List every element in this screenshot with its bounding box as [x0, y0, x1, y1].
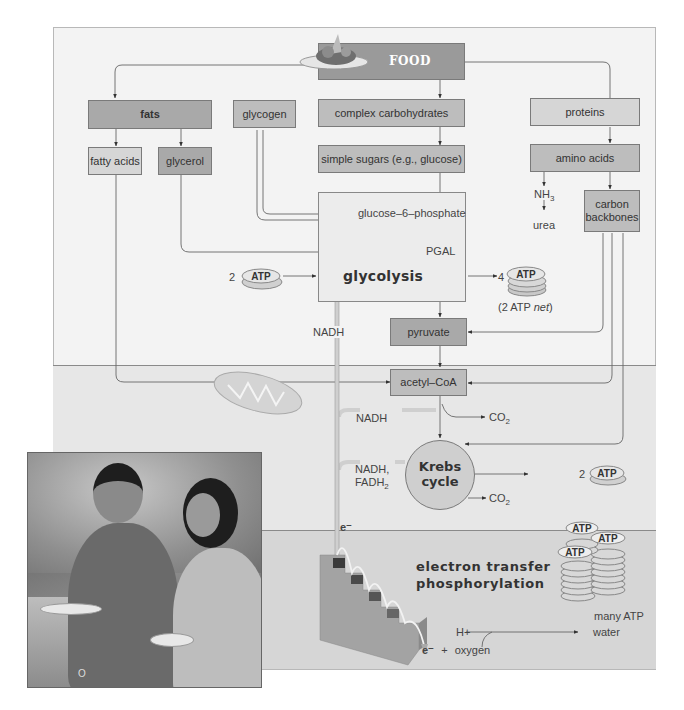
photo-caption: O [78, 668, 86, 679]
e-minus-text: e⁻ [422, 644, 434, 656]
etp-label-1: electron transfer [416, 559, 551, 576]
atp-net-close: ) [549, 301, 553, 313]
svg-text:ATP: ATP [572, 523, 592, 534]
students-eating-photo: O [27, 452, 262, 688]
fats-label: fats [140, 108, 160, 121]
co2-krebs-label: CO2 [489, 492, 510, 507]
svg-text:ATP: ATP [597, 468, 617, 479]
svg-text:ATP: ATP [251, 271, 271, 282]
co2-acetyl-label: CO2 [489, 411, 510, 426]
fadh2-krebs-label: FADH2 [355, 476, 389, 491]
e-oxygen-label: e⁻ + oxygen [422, 644, 490, 657]
etp-label-2: phosphorylation [416, 576, 551, 593]
krebs-cycle-circle: Krebs cycle [405, 440, 475, 510]
glycerol-label: glycerol [166, 155, 204, 168]
proteins-box: proteins [530, 98, 640, 126]
fadh2-subscript: 2 [384, 482, 388, 491]
pgal-label: PGAL [426, 245, 455, 257]
carbon-backbones-label-2: backbones [585, 211, 638, 224]
nadh-krebs-label: NADH, [355, 463, 389, 475]
nadh-glycolysis-label: NADH [313, 326, 344, 338]
amino-acids-box: amino acids [530, 144, 640, 172]
h-plus-label: H+ [456, 626, 470, 638]
simple-sugars-box: simple sugars (e.g., glucose) [318, 145, 465, 173]
atp-net-italic: net [534, 301, 549, 313]
svg-text:ATP: ATP [565, 547, 585, 558]
complex-carbohydrates-label: complex carbohydrates [335, 107, 449, 120]
complex-carbohydrates-box: complex carbohydrates [318, 99, 465, 127]
atp-out-count: 4 [498, 271, 504, 283]
nadh-acetyl-label: NADH [356, 412, 387, 424]
etp-label: electron transfer phosphorylation [416, 559, 551, 593]
photo-head-left [93, 463, 143, 523]
carbon-backbones-box: carbon backbones [584, 190, 640, 232]
many-atp-stacks-icon: ATP ATP ATP [550, 520, 630, 610]
co2-krebs-subscript: 2 [506, 498, 510, 507]
photo-plate-right [150, 633, 194, 647]
glycolysis-label: glycolysis [343, 268, 423, 284]
nh3-label: NH3 [534, 188, 554, 203]
pyruvate-label: pyruvate [407, 326, 449, 339]
pyruvate-box: pyruvate [390, 318, 467, 346]
svg-text:ATP: ATP [516, 269, 536, 280]
glycerol-box: glycerol [158, 147, 212, 175]
atp-net-text: (2 ATP [498, 301, 534, 313]
simple-sugars-label: simple sugars (e.g., glucose) [321, 153, 462, 166]
co2-text: CO [489, 411, 506, 423]
atp-net-label: (2 ATP net) [498, 301, 553, 313]
fatty-acids-box: fatty acids [88, 147, 142, 175]
photo-person-right [173, 548, 262, 688]
amino-acids-label: amino acids [556, 152, 615, 165]
atp-krebs-coin-icon: ATP [588, 461, 628, 489]
salad-plate-icon [298, 30, 370, 72]
fats-box: fats [88, 100, 212, 129]
atp-in-count: 2 [229, 271, 235, 283]
atp-krebs-count: 2 [579, 468, 585, 480]
proteins-label: proteins [565, 106, 604, 119]
oxygen-text: oxygen [455, 644, 490, 656]
photo-plate-left [40, 603, 102, 615]
glycogen-box: glycogen [233, 100, 296, 128]
g6p-label: glucose–6–phosphate [358, 207, 466, 219]
co2-krebs-text: CO [489, 492, 506, 504]
krebs-label-1: Krebs [419, 460, 461, 475]
nh3-subscript: 3 [550, 194, 554, 203]
svg-text:ATP: ATP [598, 533, 618, 544]
acetyl-coa-label: acetyl–CoA [400, 376, 456, 389]
photo-face-right [186, 493, 220, 537]
food-label: FOOD [389, 55, 431, 69]
fadh2-text: FADH [355, 476, 384, 488]
plus-text: + [441, 644, 447, 656]
electron-label: e⁻ [340, 521, 352, 534]
co2-subscript: 2 [506, 417, 510, 426]
water-label: water [593, 626, 620, 638]
many-atp-label: many ATP [594, 610, 644, 622]
glycogen-label: glycogen [242, 108, 286, 121]
nh3-text: NH [534, 188, 550, 200]
atp-coin-icon: ATP [240, 264, 284, 292]
krebs-label-2: cycle [421, 475, 458, 490]
atp-stack-icon: ATP [505, 262, 549, 298]
fatty-acids-label: fatty acids [90, 155, 140, 168]
acetyl-coa-box: acetyl–CoA [390, 369, 467, 396]
carbon-backbones-label-1: carbon [595, 198, 629, 211]
urea-label: urea [533, 219, 555, 231]
